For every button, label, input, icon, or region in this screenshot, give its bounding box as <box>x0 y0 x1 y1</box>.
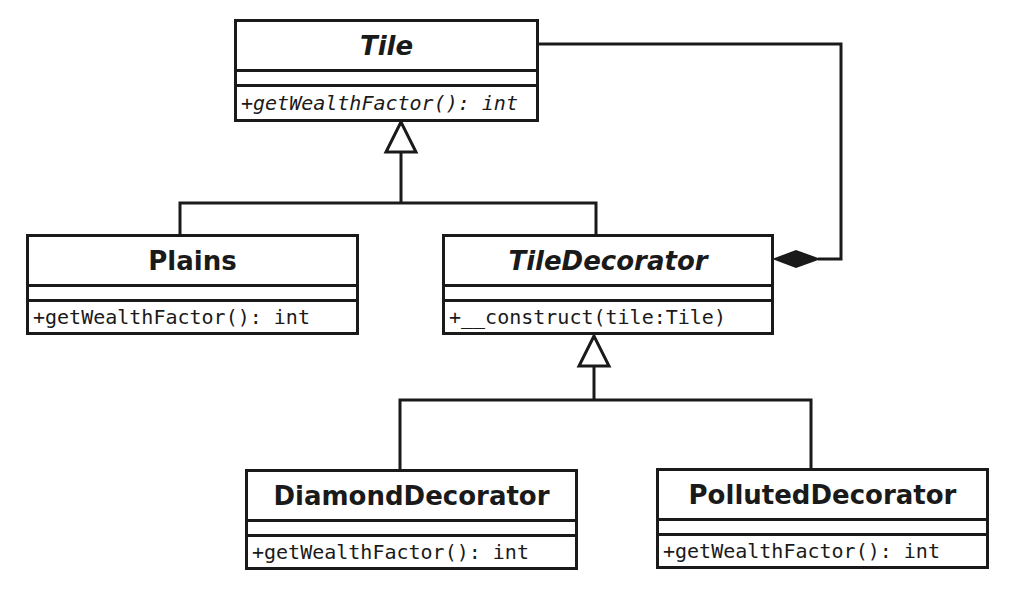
composition-line <box>538 44 841 259</box>
operation: +getWealthFactor(): int <box>237 87 536 119</box>
class-name: TileDecorator <box>445 237 771 287</box>
class-tile-decorator[interactable]: TileDecorator +__construct(tile:Tile) <box>442 234 774 335</box>
class-plains[interactable]: Plains +getWealthFactor(): int <box>26 234 359 335</box>
attributes-compartment <box>29 287 356 302</box>
operation: +getWealthFactor(): int <box>248 537 575 567</box>
generalization-arrowhead-tiledecorator <box>579 336 609 366</box>
operation: +getWealthFactor(): int <box>659 536 986 566</box>
class-tile[interactable]: Tile +getWealthFactor(): int <box>234 19 539 122</box>
class-diamond-decorator[interactable]: DiamondDecorator +getWealthFactor(): int <box>245 469 578 570</box>
class-name: PollutedDecorator <box>659 471 986 521</box>
composition-diamond-icon <box>775 251 818 267</box>
operation: +__construct(tile:Tile) <box>445 302 771 332</box>
class-polluted-decorator[interactable]: PollutedDecorator +getWealthFactor(): in… <box>656 468 989 569</box>
class-name: DiamondDecorator <box>248 472 575 522</box>
attributes-compartment <box>445 287 771 302</box>
attributes-compartment <box>659 521 986 536</box>
attributes-compartment <box>248 522 575 537</box>
attributes-compartment <box>237 72 536 87</box>
generalization-line-plains-tile <box>180 203 596 234</box>
class-name: Tile <box>237 22 536 72</box>
operation: +getWealthFactor(): int <box>29 302 356 332</box>
generalization-arrowhead-tile <box>386 122 416 152</box>
uml-class-diagram: Tile +getWealthFactor(): int Plains +get… <box>0 0 1014 594</box>
generalization-line-decorators <box>400 400 811 469</box>
class-name: Plains <box>29 237 356 287</box>
